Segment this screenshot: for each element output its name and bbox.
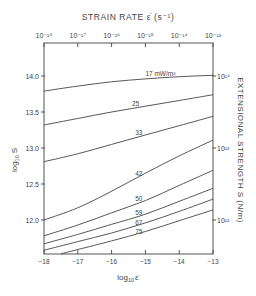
top-axis-title: STRAIN RATE ε̇ (s⁻¹) — [82, 12, 175, 22]
curve-17 — [44, 75, 213, 91]
top-tick-label: 10⁻¹⁵ — [137, 32, 154, 39]
bottom-tick-label: −17 — [72, 258, 83, 265]
left-axis-ticks: 12.012.513.013.514.0 — [25, 73, 45, 224]
right-tick-label: 10¹³ — [217, 145, 230, 152]
top-axis-ticks: 10⁻¹⁸10⁻¹⁷10⁻¹⁶10⁻¹⁵10⁻¹⁴10⁻¹³ — [36, 32, 222, 47]
bottom-tick-label: −16 — [106, 258, 117, 265]
top-tick-label: 10⁻¹⁸ — [36, 32, 53, 39]
top-tick-label: 10⁻¹⁶ — [103, 32, 120, 39]
bottom-tick-label: −15 — [140, 258, 151, 265]
curve-50 — [44, 170, 213, 236]
bottom-tick-label: −14 — [174, 258, 185, 265]
right-tick-label: 10¹² — [217, 217, 230, 224]
curve-25 — [44, 95, 213, 125]
left-tick-label: 12.0 — [25, 217, 39, 224]
bottom-axis-label: log10ε̇ — [117, 273, 139, 283]
bottom-tick-label: −18 — [38, 258, 49, 265]
plot-frame — [44, 43, 213, 254]
right-tick-label: 10¹⁴ — [217, 73, 230, 80]
left-tick-label: 13.0 — [25, 145, 39, 152]
right-axis-label: EXTENSIONAL STRENGTH S (N/m) — [236, 77, 245, 223]
top-tick-label: 10⁻¹³ — [205, 32, 222, 39]
curve-label: 59 — [135, 209, 143, 216]
strength-chart: STRAIN RATE ε̇ (s⁻¹) 10⁻¹⁸10⁻¹⁷10⁻¹⁶10⁻¹… — [0, 0, 256, 296]
left-tick-label: 14.0 — [25, 73, 39, 80]
left-tick-label: 13.5 — [25, 109, 39, 116]
curves — [44, 75, 213, 254]
curve-label: 67 — [135, 219, 143, 226]
curve-label: 75 — [135, 228, 143, 235]
top-tick-label: 10⁻¹⁴ — [171, 32, 188, 39]
curve-labels: 17 mW/m²25334250596775 — [132, 70, 176, 235]
curve-label: 33 — [135, 129, 143, 136]
curve-59 — [44, 188, 213, 244]
left-axis-label: log10S — [10, 148, 20, 172]
right-axis-ticks: 10¹²10¹³10¹⁴ — [212, 73, 230, 224]
curve-label: 17 mW/m² — [145, 70, 176, 77]
curve-33 — [44, 116, 213, 161]
curve-label: 50 — [135, 195, 143, 202]
curve-label: 42 — [135, 170, 143, 177]
curve-label: 25 — [132, 100, 140, 107]
left-tick-label: 12.5 — [25, 181, 39, 188]
top-tick-label: 10⁻¹⁷ — [70, 32, 87, 39]
bottom-tick-label: −13 — [207, 258, 218, 265]
